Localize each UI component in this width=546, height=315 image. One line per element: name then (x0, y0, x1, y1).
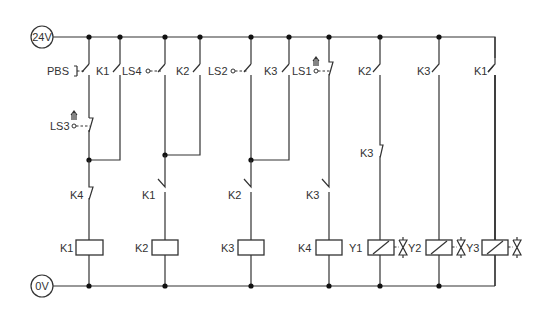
k2-series-label: K2 (228, 189, 241, 201)
ls3-label: LS3 (50, 120, 70, 132)
valve-icon (399, 237, 407, 258)
rung-4: LS1 K3 K4 (292, 34, 342, 288)
rung-6: K3 Y3 (417, 34, 479, 288)
coil-k4-label: K4 (298, 242, 311, 254)
limit-switch-roller-icon (314, 69, 318, 73)
rail-0v-label: 0V (35, 280, 49, 292)
k3-nc-label: K3 (360, 147, 373, 159)
k1-no-label: K1 (474, 65, 487, 77)
k4-nc-label: K4 (70, 189, 83, 201)
valve-y2-label: Y2 (408, 242, 421, 254)
k1-seal-label: K1 (96, 65, 109, 77)
actuated-arrow-icon (71, 111, 77, 120)
ls2-label: LS2 (208, 65, 228, 77)
relay-coil-k2 (152, 240, 178, 255)
valve-icon (457, 237, 465, 258)
pbs-label: PBS (47, 65, 69, 77)
relay-coil-k4 (316, 240, 342, 255)
rung-5: K2 K3 Y1 Y2 (349, 34, 421, 288)
valve-y3-label: Y3 (466, 242, 479, 254)
rung-2: LS4 K2 K1 K2 (122, 34, 203, 288)
limit-switch-roller-icon (72, 124, 76, 128)
relay-coil-k1 (76, 240, 103, 255)
ls3-contact-blade (89, 118, 93, 132)
k3-no-label: K3 (417, 65, 430, 77)
ls1-label: LS1 (292, 65, 312, 77)
pushbutton-icon (74, 66, 77, 76)
k2-seal-label: K2 (176, 65, 189, 77)
rung-3: LS2 K3 K2 K3 (208, 34, 292, 288)
limit-switch-roller-icon (231, 69, 235, 73)
power-rail-0v: 0V (31, 275, 495, 297)
coil-k2-label: K2 (135, 242, 148, 254)
k3-series-label: K3 (306, 189, 319, 201)
rung-1: PBS LS3 K1 K4 K1 (47, 34, 123, 288)
k3-seal-label: K3 (264, 65, 277, 77)
valve-icon (513, 237, 521, 258)
k2-no-label: K2 (358, 65, 371, 77)
rail-24v-label: 24V (32, 31, 52, 43)
solenoid-y1-label: Y1 (349, 242, 362, 254)
coil-k1-label: K1 (60, 242, 73, 254)
k1-series-label: K1 (142, 189, 155, 201)
actuated-arrow-icon (313, 57, 319, 66)
limit-switch-roller-icon (146, 69, 150, 73)
ladder-diagram: 24V 0V PBS LS3 K1 K4 K1 (0, 0, 546, 315)
coil-k3-label: K3 (221, 242, 234, 254)
relay-coil-k3 (238, 240, 264, 255)
rung-7: K1 (474, 37, 521, 286)
ls4-label: LS4 (122, 65, 142, 77)
